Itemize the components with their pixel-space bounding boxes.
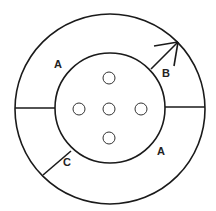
- arrow-b: [151, 42, 178, 69]
- label-a-bottom: A: [157, 145, 165, 157]
- label-a-top: A: [54, 58, 62, 70]
- hole-top: [103, 72, 115, 84]
- hole-left: [73, 103, 85, 115]
- hole-right: [135, 103, 147, 115]
- label-b: B: [162, 67, 170, 79]
- hole-center: [103, 103, 115, 115]
- inner-circle: [55, 53, 165, 163]
- hole-bottom: [103, 132, 115, 144]
- label-c: C: [63, 156, 71, 168]
- annulus-diagram: A A B C: [0, 0, 216, 211]
